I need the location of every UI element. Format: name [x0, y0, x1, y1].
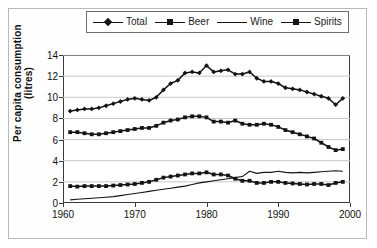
y-tick-label: 12 [40, 71, 58, 82]
x-tick-label: 1970 [115, 209, 155, 220]
marker-square-beer [233, 119, 237, 123]
marker-square-spirits [248, 179, 252, 183]
marker-square-beer [97, 132, 101, 136]
y-tick-mark [59, 161, 63, 162]
x-tick-mark [135, 203, 136, 207]
y-tick-label: 8 [40, 113, 58, 124]
marker-diamond-total [262, 79, 267, 84]
marker-diamond-total [218, 68, 223, 73]
diamond-marker-icon [104, 18, 112, 26]
marker-square-beer [104, 131, 108, 135]
x-tick-label: 1960 [43, 209, 83, 220]
marker-square-beer [312, 137, 316, 141]
marker-square-spirits [183, 173, 187, 177]
marker-diamond-total [89, 107, 94, 112]
square-marker-icon [167, 19, 173, 25]
marker-square-spirits [162, 176, 166, 180]
marker-square-spirits [133, 182, 137, 186]
marker-square-spirits [269, 180, 273, 184]
y-tick-mark [59, 76, 63, 77]
legend-label-spirits: Spirits [314, 17, 342, 27]
marker-square-beer [154, 124, 158, 128]
marker-square-beer [75, 130, 79, 134]
marker-diamond-total [190, 70, 195, 75]
marker-square-spirits [327, 183, 331, 187]
legend-swatch-beer [155, 18, 185, 27]
legend-label-beer: Beer [188, 17, 209, 27]
marker-square-beer [269, 123, 273, 127]
marker-square-spirits [240, 179, 244, 183]
legend-label-total: Total [126, 17, 147, 27]
y-tick-mark [59, 97, 63, 98]
y-tick-mark [59, 55, 63, 56]
marker-square-spirits [111, 184, 115, 188]
marker-diamond-total [319, 94, 324, 99]
marker-square-beer [276, 125, 280, 129]
marker-square-beer [190, 114, 194, 118]
x-tick-label: 1980 [187, 209, 227, 220]
marker-square-beer [90, 132, 94, 136]
marker-diamond-total [118, 99, 123, 104]
marker-diamond-total [147, 98, 152, 103]
marker-diamond-total [290, 86, 295, 91]
marker-square-spirits [90, 184, 94, 188]
marker-diamond-total [75, 108, 80, 113]
series-line-beer [70, 116, 343, 150]
legend-swatch-wine [217, 18, 247, 27]
marker-square-beer [219, 120, 223, 124]
marker-square-spirits [126, 183, 130, 187]
series-line-total [70, 66, 343, 111]
y-tick-label: 2 [40, 176, 58, 187]
marker-square-spirits [276, 180, 280, 184]
legend-item-wine: Wine [217, 17, 273, 27]
marker-square-spirits [262, 181, 266, 185]
marker-square-beer [248, 123, 252, 127]
marker-square-spirits [226, 174, 230, 178]
marker-square-beer [183, 115, 187, 119]
marker-square-spirits [233, 177, 237, 181]
marker-square-beer [305, 135, 309, 139]
y-tick-mark [59, 182, 63, 183]
plot-area [63, 55, 350, 203]
marker-diamond-total [297, 87, 302, 92]
marker-square-beer [240, 122, 244, 126]
marker-square-spirits [75, 185, 79, 189]
marker-diamond-total [111, 101, 116, 106]
x-tick-label: 2000 [330, 209, 370, 220]
marker-square-spirits [312, 182, 316, 186]
marker-square-spirits [119, 183, 123, 187]
marker-square-beer [133, 127, 137, 131]
legend-item-spirits: Spirits [281, 17, 342, 27]
y-tick-label: 4 [40, 155, 58, 166]
y-tick-mark [59, 140, 63, 141]
legend-swatch-total [93, 18, 123, 27]
legend-swatch-spirits [281, 18, 311, 27]
marker-square-spirits [319, 182, 323, 186]
marker-square-spirits [169, 175, 173, 179]
y-tick-label: 14 [40, 50, 58, 61]
x-tick-mark [63, 203, 64, 207]
marker-square-spirits [147, 180, 151, 184]
marker-square-spirits [104, 184, 108, 188]
marker-square-spirits [205, 170, 209, 174]
marker-square-spirits [176, 174, 180, 178]
y-tick-label: 6 [40, 134, 58, 145]
x-tick-label: 1990 [258, 209, 298, 220]
marker-square-beer [147, 126, 151, 130]
marker-square-beer [140, 126, 144, 130]
marker-square-spirits [197, 172, 201, 176]
marker-square-beer [83, 131, 87, 135]
marker-square-beer [212, 120, 216, 124]
plot-svg [63, 55, 350, 203]
marker-square-beer [327, 145, 331, 149]
square-marker-icon [293, 19, 299, 25]
marker-diamond-total [82, 107, 87, 112]
marker-square-beer [197, 114, 201, 118]
legend-label-wine: Wine [250, 17, 273, 27]
marker-square-beer [298, 132, 302, 136]
marker-square-spirits [68, 184, 72, 188]
y-tick-mark [59, 118, 63, 119]
marker-square-spirits [190, 172, 194, 176]
marker-square-beer [226, 121, 230, 125]
marker-square-beer [262, 122, 266, 126]
